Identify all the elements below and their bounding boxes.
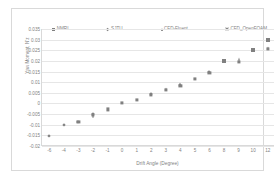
gridline <box>42 135 274 136</box>
data-point <box>135 98 138 101</box>
data-point <box>251 48 255 52</box>
x-axis-tick-label: -1 <box>105 148 109 153</box>
gridline <box>42 50 274 51</box>
chart-container: Yaw Moment, N'z NMRISJTUCFD-FluentCFD_Op… <box>0 0 275 181</box>
y-axis-tick-label: 0.035 <box>29 27 41 32</box>
y-axis-tick-label: 0 <box>37 101 40 106</box>
x-axis-tick-label: 5 <box>194 148 197 153</box>
x-axis-tick-label: 10 <box>251 148 256 153</box>
data-point <box>208 70 210 73</box>
y-axis-tick-label: -0.02 <box>30 144 40 149</box>
y-axis-tick-label: -0.01 <box>30 122 40 127</box>
x-axis-tick-label: -2 <box>91 148 95 153</box>
plot-area: 0.0350.030.0250.020.0150.010.0050-0.005-… <box>41 29 274 146</box>
x-axis-tick-label: 12 <box>265 148 270 153</box>
gridline <box>42 82 274 83</box>
data-point <box>179 83 181 86</box>
data-point <box>121 101 124 104</box>
x-axis-tick-label: 0 <box>121 148 124 153</box>
data-point <box>165 88 167 91</box>
y-axis-tick-label: 0.02 <box>31 58 40 63</box>
y-axis-title: Yaw Moment, N'z <box>25 10 30 102</box>
x-axis-tick-label: 6 <box>208 148 211 153</box>
gridline <box>42 72 274 73</box>
y-axis-tick-label: 0.03 <box>31 37 40 42</box>
data-point <box>238 58 240 61</box>
y-axis-tick-label: -0.015 <box>27 133 40 138</box>
chart-frame: Yaw Moment, N'z NMRISJTUCFD-FluentCFD_Op… <box>11 8 264 171</box>
gridline <box>42 103 274 104</box>
gridline <box>42 125 274 126</box>
x-axis-tick-label: 4 <box>179 148 182 153</box>
x-axis-tick-label: 9 <box>237 148 240 153</box>
gridline <box>42 93 274 94</box>
x-axis-title: Drift Angle (Degree) <box>41 161 274 166</box>
gridline <box>42 29 274 30</box>
x-axis-tick-label: 1 <box>135 148 138 153</box>
data-point <box>150 92 152 95</box>
data-point <box>193 77 196 80</box>
x-axis-tick-label: 3 <box>165 148 168 153</box>
x-axis-tick-label: -3 <box>76 148 80 153</box>
y-axis-tick-label: 0.015 <box>29 69 41 74</box>
x-axis-tick-label: 2 <box>150 148 153 153</box>
data-point <box>266 38 270 42</box>
data-point <box>267 46 269 49</box>
gridline <box>42 40 274 41</box>
y-axis-tick-label: -0.005 <box>27 112 40 117</box>
y-axis-tick-label: 0.025 <box>29 48 41 53</box>
y-axis-tick-label: 0.01 <box>31 80 40 85</box>
gridline <box>42 114 274 115</box>
y-axis-tick-label: 0.005 <box>29 90 41 95</box>
x-axis-tick-label: 8 <box>223 148 226 153</box>
data-point <box>222 59 226 63</box>
data-point <box>106 108 109 111</box>
x-axis-tick-label: -4 <box>62 148 66 153</box>
data-point <box>62 124 66 128</box>
x-axis-tick-label: -6 <box>47 148 51 153</box>
data-point <box>92 115 94 118</box>
